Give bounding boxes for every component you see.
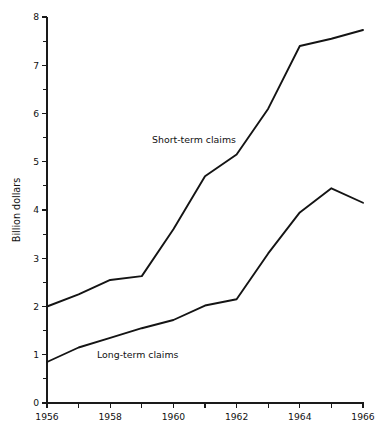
series-label-short-term-claims: Short-term claims <box>152 134 236 145</box>
y-axis-tick-labels: 012345678 <box>33 11 39 408</box>
y-axis-title: Billion dollars <box>11 178 22 242</box>
y-axis-major-ticks <box>42 17 47 403</box>
x-tick-label: 1966 <box>351 411 375 422</box>
y-tick-label: 2 <box>33 301 39 312</box>
series-annotations: Short-term claims Long-term claims <box>97 134 236 360</box>
x-tick-label: 1958 <box>99 411 123 422</box>
series-line-short-term-claims <box>47 30 363 306</box>
chart-figure: 012345678 Billion dollars 19561958196019… <box>0 0 378 443</box>
y-tick-label: 5 <box>33 156 39 167</box>
series-label-long-term-claims: Long-term claims <box>97 349 179 360</box>
x-tick-label: 1964 <box>288 411 312 422</box>
x-tick-label: 1962 <box>225 411 248 422</box>
y-axis-group: 012345678 Billion dollars <box>11 11 47 408</box>
y-tick-label: 4 <box>33 204 39 215</box>
y-tick-label: 3 <box>33 253 39 264</box>
series-group <box>47 30 363 362</box>
y-tick-label: 0 <box>33 397 39 408</box>
x-tick-label: 1956 <box>35 411 59 422</box>
x-axis-ticks <box>47 403 363 408</box>
y-tick-label: 8 <box>33 11 39 22</box>
y-tick-label: 6 <box>33 108 39 119</box>
x-tick-label: 1960 <box>162 411 186 422</box>
y-tick-label: 7 <box>33 60 39 71</box>
series-line-long-term-claims <box>47 188 363 362</box>
y-tick-label: 1 <box>33 349 39 360</box>
x-axis-tick-labels: 195619581960196219641966 <box>35 411 375 422</box>
x-axis-group: 195619581960196219641966 <box>35 403 375 422</box>
line-chart-canvas: 012345678 Billion dollars 19561958196019… <box>0 0 378 443</box>
